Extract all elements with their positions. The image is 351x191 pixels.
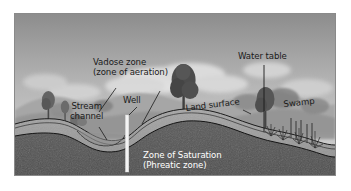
diagram-panel: Vadose zone (zone of aeration) Well Stre… [14,13,336,176]
water-table-label: Water table [238,51,287,61]
well-label: Well [123,95,141,105]
zone-of-saturation-label: Zone of Saturation (Phreatic zone) [143,150,222,170]
zone-of-saturation-label-line2: (Phreatic zone) [143,160,206,170]
groundwater-diagram-figure: Vadose zone (zone of aeration) Well Stre… [0,0,351,191]
stream-channel-label-line2: channel [70,111,103,121]
stream-channel-label: Stream channel [70,101,103,121]
vadose-zone-label-line2: (zone of aeration) [93,67,168,77]
stream-channel-label-line1: Stream [71,101,102,111]
vadose-zone-label-line1: Vadose zone [93,57,146,67]
vadose-zone-label: Vadose zone (zone of aeration) [93,57,168,77]
zone-of-saturation-label-line1: Zone of Saturation [143,150,222,160]
well-shaft [125,115,128,172]
